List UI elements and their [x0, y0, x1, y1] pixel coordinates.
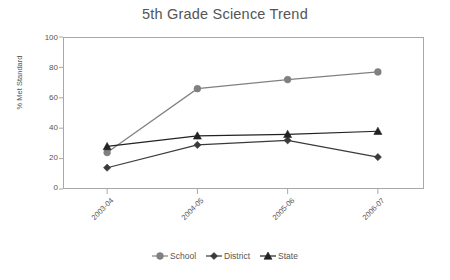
- data-point: [194, 141, 201, 148]
- triangle-marker-icon: [260, 251, 276, 261]
- legend-label: State: [278, 251, 298, 261]
- series-line-district: [107, 140, 378, 167]
- legend-label: School: [170, 251, 196, 261]
- series-line-state: [107, 131, 378, 146]
- diamond-marker-icon: [206, 251, 222, 261]
- legend-label: District: [224, 251, 250, 261]
- circle-marker-icon: [152, 251, 168, 261]
- chart-legend: SchoolDistrictState: [0, 250, 450, 261]
- chart-container: 5th Grade Science Trend % Met Standard 1…: [0, 0, 450, 280]
- data-point: [284, 76, 291, 83]
- data-point: [374, 153, 381, 160]
- series-state: [103, 127, 382, 149]
- legend-item-state[interactable]: State: [260, 250, 298, 261]
- series-line-school: [107, 72, 378, 153]
- data-point: [104, 149, 111, 156]
- data-point: [104, 164, 111, 171]
- legend-item-district[interactable]: District: [206, 250, 250, 261]
- data-point: [374, 69, 381, 76]
- legend-item-school[interactable]: School: [152, 250, 196, 261]
- data-point: [194, 85, 201, 92]
